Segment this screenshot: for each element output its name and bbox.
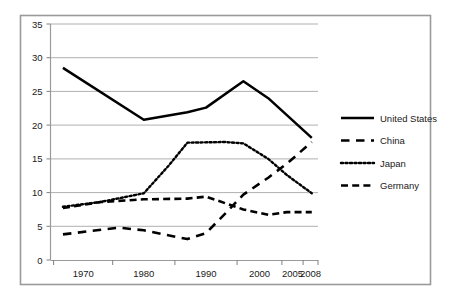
y-tick-label: 20: [32, 120, 43, 131]
x-tick-label: 1970: [73, 268, 94, 279]
x-tick-label: 2008: [300, 268, 321, 279]
y-tick-label: 30: [32, 52, 43, 63]
legend-label-china: China: [380, 135, 406, 146]
x-tick-label: 1980: [133, 268, 154, 279]
figure-background: [0, 0, 450, 300]
legend-label-germany: Germany: [380, 180, 419, 191]
x-tick-label: 2000: [249, 268, 270, 279]
y-tick-label: 10: [32, 187, 43, 198]
legend-label-japan: Japan: [380, 158, 406, 169]
y-tick-label: 35: [32, 19, 43, 30]
line-chart-figure: 05101520253035 197019801990200020052008 …: [0, 0, 450, 300]
y-tick-label: 15: [32, 153, 43, 164]
x-tick-label: 1990: [195, 268, 216, 279]
y-tick-label: 0: [37, 255, 42, 266]
legend-label-united-states: United States: [380, 113, 437, 124]
y-tick-label: 25: [32, 86, 43, 97]
y-tick-label: 5: [37, 221, 42, 232]
